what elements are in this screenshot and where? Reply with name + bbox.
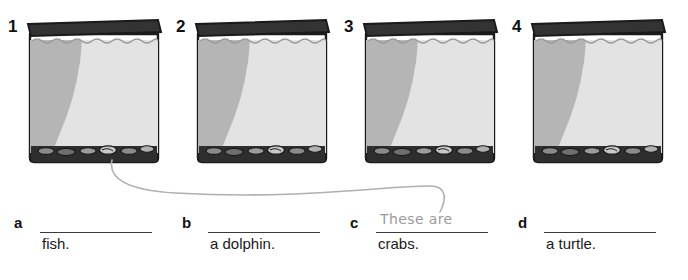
tank-number-2: 2 <box>176 18 185 35</box>
answer-tail-c: crabs. <box>378 235 419 252</box>
answer-rule-b <box>208 232 320 233</box>
fish-tank-illustration-2 <box>190 10 336 168</box>
answer-blank-c[interactable]: These are <box>376 211 488 233</box>
answer-letter-d: d <box>518 215 527 230</box>
answer-tail-b: a dolphin. <box>210 235 275 252</box>
fish-tank-item-3[interactable]: 3 <box>344 10 504 168</box>
answer-item-c[interactable]: c These are crabs. <box>350 205 520 275</box>
fish-tank-item-4[interactable]: 4 <box>512 10 672 168</box>
answer-letter-b: b <box>182 215 191 230</box>
tank-number-4: 4 <box>512 18 521 35</box>
worksheet-page: 1 <box>0 0 688 280</box>
answer-tail-a: fish. <box>42 235 70 252</box>
answer-row: a fish. b a dolphin. c These are crabs. <box>0 205 688 280</box>
answer-rule-a <box>40 232 152 233</box>
answer-handwriting-c: These are <box>380 211 453 227</box>
answer-blank-d[interactable] <box>544 211 656 233</box>
fish-tank-item-2[interactable]: 2 <box>176 10 336 168</box>
tank-number-3: 3 <box>344 18 353 35</box>
answer-item-b[interactable]: b a dolphin. <box>182 205 352 275</box>
tank-number-1: 1 <box>8 18 17 35</box>
answer-rule-c <box>376 232 488 233</box>
answer-letter-a: a <box>14 215 22 230</box>
fish-tank-row: 1 <box>0 0 688 180</box>
answer-blank-b[interactable] <box>208 211 320 233</box>
answer-item-d[interactable]: d a turtle. <box>518 205 688 275</box>
fish-tank-illustration-4 <box>526 10 672 168</box>
answer-letter-c: c <box>350 215 358 230</box>
fish-tank-item-1[interactable]: 1 <box>8 10 168 168</box>
answer-tail-d: a turtle. <box>546 235 596 252</box>
answer-blank-a[interactable] <box>40 211 152 233</box>
answer-rule-d <box>544 232 656 233</box>
fish-tank-illustration-1 <box>22 10 168 168</box>
answer-item-a[interactable]: a fish. <box>14 205 184 275</box>
fish-tank-illustration-3 <box>358 10 504 168</box>
